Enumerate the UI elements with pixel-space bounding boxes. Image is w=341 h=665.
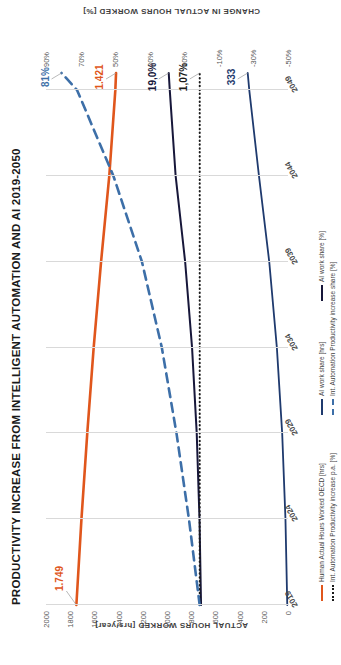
y2-tick-label: 90% [42,52,51,67]
legend-label: Human Actual Hours Worked OECD [hrs] [318,463,325,582]
legend-swatch [332,585,334,601]
y2-tick-label: -10% [214,49,223,67]
y2-tick-label: 70% [76,52,85,67]
series-line [248,73,288,605]
y2-tick-label: -30% [249,49,258,67]
series-end-data-label: 1.421 [94,64,105,89]
legend-label: Int. Automation Productivity increase sh… [329,262,336,396]
legend-swatch [332,399,334,415]
series-line [169,73,201,605]
chart-legend: Human Actual Hours Worked OECD [hrs]AI w… [318,1,340,601]
y2-tick-label: 50% [111,52,120,67]
series-end-data-label: 19,0% [147,63,158,91]
legend-item[interactable]: AI work share [hrs] [318,342,325,415]
series-end-data-label: 1,07% [178,63,189,91]
rotated-chart-frame: PRODUCTIVITY INCREASE FROM INTELLIGENT A… [0,0,341,665]
x-tick-label: 2019 [283,589,300,609]
label-leader-line [159,73,169,79]
legend-swatch [321,585,323,601]
y2-tick-label: -50% [284,49,293,67]
primary-y-axis: 0200400600800100012001400160018002000 [46,607,288,665]
gridline [46,261,288,262]
gridline [46,89,288,90]
plot-area [46,73,288,605]
legend-label: Int. Automation Productivity increase p.… [329,453,336,582]
secondary-y-axis-title: CHANGE IN ACTUAL HOURS WORKED [%] [72,7,272,16]
label-leader-line [66,591,76,605]
gridline [46,347,288,348]
legend-swatch [321,285,323,301]
legend-item[interactable]: Human Actual Hours Worked OECD [hrs] [318,463,325,601]
legend-label: AI work share [hrs] [318,342,325,396]
legend-swatch [321,399,323,415]
chart-canvas: PRODUCTIVITY INCREASE FROM INTELLIGENT A… [0,0,341,665]
legend-item[interactable]: Int. Automation Productivity increase p.… [329,453,336,601]
primary-y-axis-title: ACTUAL HOURS WORKED [hrs/year] [72,621,272,630]
series-end-data-label: 333 [226,69,237,86]
gridline [46,518,288,519]
label-leader-line [52,73,62,79]
series-end-data-label: 81% [40,67,51,87]
y-tick-label: 2000 [42,611,51,628]
gridline [46,432,288,433]
secondary-y-axis: -50%-30%-10%10%30%50%70%90% [46,11,288,71]
legend-label: AI work share [%] [318,231,325,282]
label-leader-line [238,73,248,79]
series-lines [46,73,288,605]
series-line [76,73,116,605]
gridline [46,175,288,176]
label-leader-line [190,73,200,79]
chart-title: PRODUCTIVITY INCREASE FROM INTELLIGENT A… [10,148,22,605]
legend-item[interactable]: Int. Automation Productivity increase sh… [329,262,336,415]
series-start-data-label: 1.749 [54,566,65,591]
y-tick-label: 0 [284,611,293,615]
gridline [46,604,288,605]
legend-item[interactable]: AI work share [%] [318,231,325,301]
